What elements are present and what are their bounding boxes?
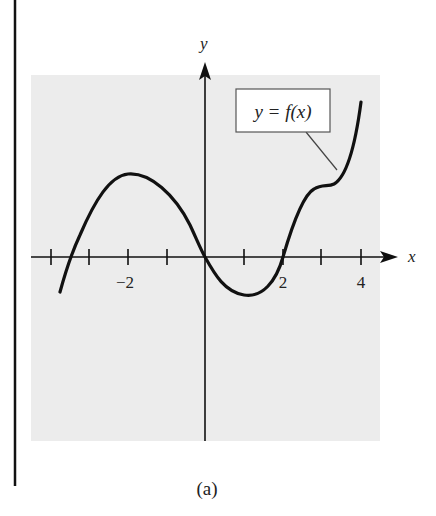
tick-label-2: 2 bbox=[279, 273, 288, 292]
y-axis-label: y bbox=[198, 34, 208, 53]
graph-canvas: −2 2 4 x y y = f(x) bbox=[0, 0, 436, 516]
figure-caption: (a) bbox=[185, 478, 229, 500]
curve-label: y = f(x) bbox=[252, 101, 311, 123]
tick-label-neg2: −2 bbox=[116, 273, 134, 292]
tick-label-4: 4 bbox=[357, 273, 366, 292]
function-graph-figure: −2 2 4 x y y = f(x) (a) bbox=[0, 0, 436, 516]
x-axis-label: x bbox=[407, 247, 416, 266]
